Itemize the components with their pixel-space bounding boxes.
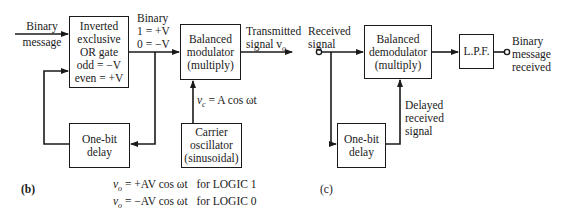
eq-rhs: = +AV cos ωt — [122, 178, 188, 190]
label-line: 1 = +V — [137, 25, 170, 38]
box-line: delay — [349, 146, 374, 159]
box-line: odd = −V — [77, 59, 121, 72]
label-line: signal vo — [246, 38, 301, 55]
binary-message-received-label: Binary message received — [512, 35, 551, 74]
label-line: signal — [405, 125, 444, 138]
eq-rhs: = −AV cos ωt — [122, 195, 188, 207]
eq-condition: for LOGIC 1 — [196, 178, 256, 190]
carrier-oscillator-box: Carrier oscillator (sinusoidal) — [181, 123, 242, 168]
box-line: exclusive — [77, 33, 120, 46]
box-line: One-bit — [82, 133, 117, 146]
box-line: L.P.F. — [463, 45, 489, 58]
output-terminal-icon — [504, 49, 509, 54]
feedback-to-delay-arrow — [131, 52, 155, 144]
binary-mapping-label: Binary 1 = +V 0 = −V — [137, 12, 170, 51]
box-line: modulator — [187, 46, 234, 59]
delayed-received-signal-label: Delayed received signal — [405, 99, 444, 138]
box-line: Carrier — [195, 126, 228, 139]
box-line: Balanced — [377, 33, 420, 46]
eq-rest: = A cos ωt — [206, 94, 257, 106]
delayed-to-demod-arrow — [386, 80, 400, 144]
received-to-delay-arrow — [331, 52, 336, 144]
one-bit-delay-box-b: One-bit delay — [69, 123, 130, 168]
label-line: Binary — [20, 20, 64, 32]
box-line: delay — [87, 146, 112, 159]
label-line: received — [405, 112, 444, 125]
received-signal-label: Received signal — [308, 25, 351, 51]
transmitted-signal-label: Transmitted signal vo — [246, 25, 301, 55]
inverted-xor-gate-box: Inverted exclusive OR gate odd = −V even… — [69, 16, 129, 88]
signal-text: signal v — [246, 38, 282, 50]
box-line: oscillator — [190, 139, 233, 152]
box-line: (multiply) — [375, 59, 422, 72]
binary-message-label: Binary message — [20, 20, 64, 48]
balanced-modulator-box: Balanced modulator (multiply) — [180, 24, 241, 80]
panel-c-label: (c) — [320, 183, 333, 196]
one-bit-delay-box-c: One-bit delay — [337, 123, 386, 168]
equation-logic-1: vo = +AV cos ωt for LOGIC 1 — [113, 178, 257, 195]
box-line: OR gate — [80, 46, 118, 59]
delay-to-xor-arrow — [44, 71, 69, 144]
label-line: message — [20, 36, 64, 48]
label-line: signal — [308, 38, 351, 51]
label-line: Binary — [512, 35, 551, 48]
label-line: message — [512, 48, 551, 61]
label-line: 0 = −V — [137, 38, 170, 51]
balanced-demodulator-box: Balanced demodulator (multiply) — [364, 25, 432, 79]
box-line: even = +V — [75, 72, 124, 85]
eq-condition: for LOGIC 0 — [196, 195, 256, 207]
subscript: o — [282, 44, 286, 53]
box-line: demodulator — [369, 46, 427, 59]
box-line: (multiply) — [187, 59, 234, 72]
box-line: One-bit — [344, 133, 379, 146]
lpf-box: L.P.F. — [459, 34, 494, 69]
carrier-equation-label: vc = A cos ωt — [197, 94, 257, 111]
box-line: Balanced — [189, 33, 232, 46]
label-line: received — [512, 61, 551, 74]
panel-b-label: (b) — [21, 183, 35, 196]
label-line: Binary — [137, 12, 170, 25]
box-line: (sinusoidal) — [184, 152, 238, 165]
label-line: Delayed — [405, 99, 444, 112]
label-line: Transmitted — [246, 25, 301, 38]
box-line: Inverted — [80, 20, 118, 33]
equation-logic-0: vo = −AV cos ωt for LOGIC 0 — [113, 195, 257, 212]
label-line: Received — [308, 25, 351, 38]
